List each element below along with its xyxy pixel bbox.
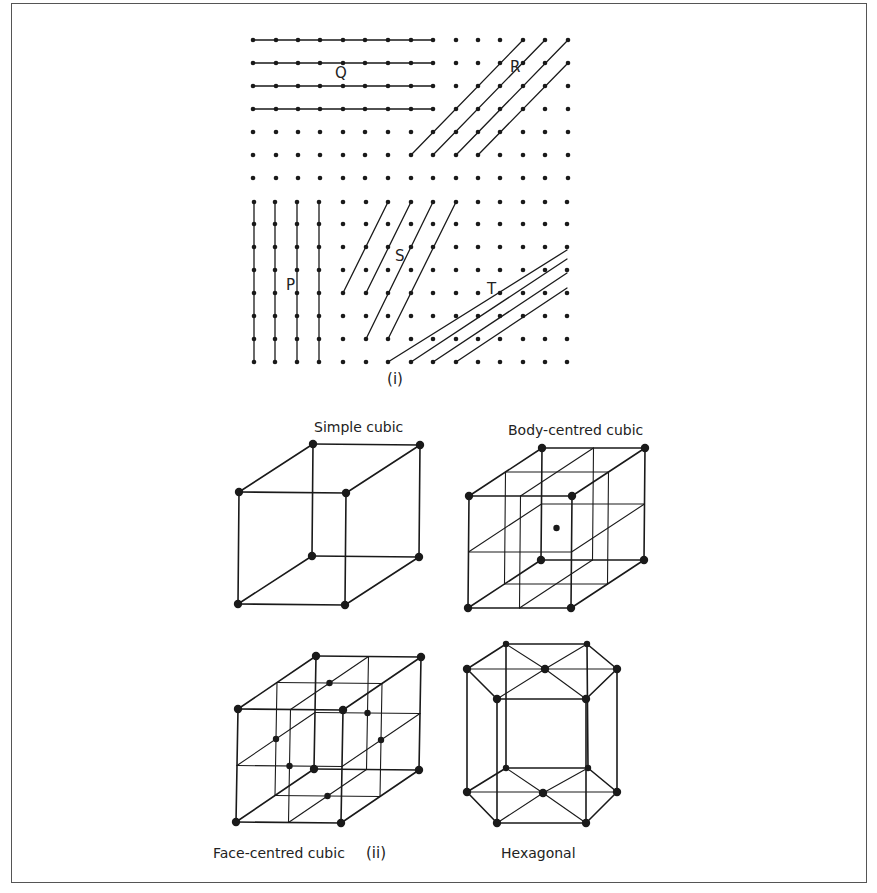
cube-edge (419, 445, 420, 557)
corner-atom (309, 440, 317, 448)
cube-edge (239, 492, 346, 493)
lattice-point (454, 268, 459, 273)
cube-edge (345, 557, 419, 605)
corner-atom (310, 765, 318, 773)
lattice-point (521, 153, 526, 158)
lattice-point (565, 222, 570, 227)
corner-atom (416, 441, 424, 449)
lattice-point (498, 222, 503, 227)
hexagonal-atom (503, 765, 509, 771)
lattice-point (566, 176, 571, 181)
lattice-point (318, 153, 323, 158)
corner-atom (538, 444, 546, 452)
lattice-point (364, 200, 369, 205)
lattice-point (476, 176, 481, 181)
corner-atom (537, 556, 545, 564)
lattice-point (498, 200, 503, 205)
hexagon-edge (467, 768, 506, 792)
lattice-point (543, 268, 548, 273)
lattice-point (341, 200, 346, 205)
corner-atom (234, 705, 242, 713)
lattice-point (431, 222, 436, 227)
lattice-point (318, 176, 323, 181)
unit-cell-label: Hexagonal (501, 845, 576, 861)
corner-atom (415, 766, 423, 774)
hexagonal-atom (493, 819, 501, 827)
unit-cell-label: Body-centred cubic (508, 422, 643, 438)
panel-ii-unit-cells: Simple cubicBody-centred cubicFace-centr… (213, 419, 649, 861)
lattice-point (476, 245, 481, 250)
lattice-point (364, 268, 369, 273)
lattice-point (341, 176, 346, 181)
plane-line (343, 202, 388, 293)
face-centre-atom (324, 793, 330, 799)
lattice-point (543, 245, 548, 250)
plane-label-t: T (486, 280, 497, 298)
unit-cell-body-centred-cubic: Body-centred cubic (464, 422, 649, 612)
lattice-point (454, 61, 459, 66)
corner-atom (312, 652, 320, 660)
lattice-point (341, 268, 346, 273)
lattice-point (386, 222, 391, 227)
unit-cell-label: Face-centred cubic (213, 845, 345, 861)
lattice-point (454, 176, 459, 181)
lattice-point (386, 314, 391, 319)
lattice-point (341, 314, 346, 319)
hexagonal-atom (613, 788, 621, 796)
hexagon-spoke (543, 768, 588, 793)
lattice-point (364, 360, 369, 365)
face-centre-atom (378, 737, 384, 743)
lattice-point (409, 268, 414, 273)
corner-atom (232, 818, 240, 826)
lattice-point (363, 153, 368, 158)
hexagon-edge (467, 644, 506, 669)
lattice-point (341, 222, 346, 227)
lattice-point (521, 337, 526, 342)
corner-atom (341, 601, 349, 609)
lattice-point (341, 153, 346, 158)
unit-cell-simple-cubic: Simple cubic (234, 419, 424, 609)
cube-edge (239, 444, 313, 492)
corner-atom (567, 604, 575, 612)
lattice-point (251, 130, 256, 135)
panel-ii-label: (ii) (366, 844, 386, 862)
corner-atom (464, 604, 472, 612)
lattice-point (566, 130, 571, 135)
lattice-point (543, 222, 548, 227)
lattice-point (498, 38, 503, 43)
lattice-point (364, 222, 369, 227)
lattice-point (565, 314, 570, 319)
plane-line (411, 40, 523, 155)
hexagonal-atom (584, 641, 590, 647)
corner-atom (234, 600, 242, 608)
hexagon-edge (587, 644, 617, 669)
lattice-point (386, 268, 391, 273)
corner-atom (417, 653, 425, 661)
plane-line (433, 273, 567, 362)
lattice-point (386, 176, 391, 181)
corner-atom (308, 552, 316, 560)
lattice-point (364, 314, 369, 319)
plane-family-t: T (388, 250, 567, 362)
lattice-point (409, 314, 414, 319)
lattice-point (521, 222, 526, 227)
lattice-point (476, 38, 481, 43)
lattice-point (498, 153, 503, 158)
lattice-point (409, 222, 414, 227)
hexagon-edge (467, 792, 497, 823)
lattice-point (341, 360, 346, 365)
corner-atom (415, 553, 423, 561)
plane-line (478, 63, 568, 155)
lattice-point (543, 200, 548, 205)
panel-i-label: (i) (387, 370, 403, 388)
lattice-point (454, 38, 459, 43)
plane-label-r: R (510, 58, 520, 76)
plane-label-s: S (395, 247, 405, 265)
mid-plane-line (608, 472, 609, 584)
plane-line (456, 288, 567, 362)
lattice-point (543, 130, 548, 135)
lattice-point (476, 61, 481, 66)
lattice-point (543, 337, 548, 342)
mid-plane-line (505, 472, 506, 584)
lattice-point (341, 130, 346, 135)
